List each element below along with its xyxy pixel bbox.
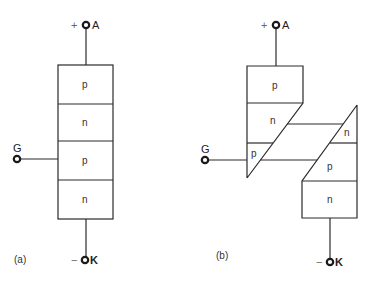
anode-terminal-b [273,22,279,28]
anode-label-a: A [92,19,100,31]
caption-a: (a) [14,254,26,265]
anode-terminal-a [83,22,89,28]
region-2-label-b: n [270,115,276,126]
region-5-label-b: p [327,161,333,172]
region-1-label-b: p [272,80,278,91]
cathode-sign-b: − [316,256,322,268]
layer-2-label-a: n [82,117,88,128]
anode-sign-a: + [71,19,77,31]
cathode-sign-a: − [71,254,77,266]
region-4-label-b: n [344,127,350,138]
region-6-label-b: n [327,194,333,205]
anode-label-b: A [282,19,290,31]
panel-a: + A p n p n G − K (a) [13,19,113,266]
cathode-terminal-a [82,257,88,263]
cathode-label-b: K [335,256,343,268]
layer-3-label-a: p [82,155,88,166]
cathode-terminal-b [327,259,333,265]
layer-1-label-a: p [82,79,88,90]
gate-terminal-b [202,157,208,163]
layer-4-label-a: n [82,194,88,205]
cathode-label-a: K [90,254,98,266]
gate-terminal-a [14,156,20,162]
thyristor-diagram: + A p n p n G − K (a) + A [0,0,374,284]
region-3-label-b: p [251,148,257,159]
caption-b: (b) [216,250,228,261]
gate-label-a: G [13,142,22,154]
panel-b: + A p n p n p n G − K (b) [201,19,357,268]
anode-sign-b: + [261,19,267,31]
gate-label-b: G [201,143,210,155]
